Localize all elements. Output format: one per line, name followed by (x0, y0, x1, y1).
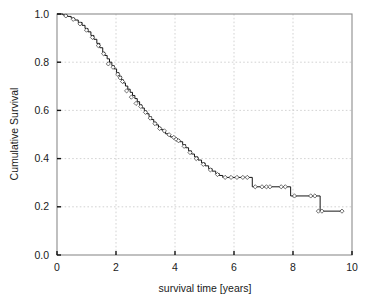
y-tick-label: 0.6 (34, 104, 49, 116)
y-tick-label: 0.2 (34, 200, 49, 212)
y-tick-label: 1.0 (34, 8, 49, 20)
survival-chart-figure: 0246810 0.00.20.40.60.81.0 survival time… (0, 0, 365, 300)
y-tick-label: 0.4 (34, 152, 49, 164)
x-tick-label: 8 (290, 261, 296, 273)
x-tick-label: 10 (346, 261, 358, 273)
x-tick-label: 0 (54, 261, 60, 273)
y-axis-title: Cumulative Survival (8, 88, 20, 181)
x-axis-title: survival time [years] (159, 282, 252, 294)
x-tick-label: 6 (231, 261, 237, 273)
x-tick-label: 4 (172, 261, 178, 273)
y-tick-label: 0.0 (34, 249, 49, 261)
x-tick-label: 2 (113, 261, 119, 273)
kaplan-meier-plot: 0246810 0.00.20.40.60.81.0 survival time… (0, 0, 365, 300)
y-tick-label: 0.8 (34, 56, 49, 68)
